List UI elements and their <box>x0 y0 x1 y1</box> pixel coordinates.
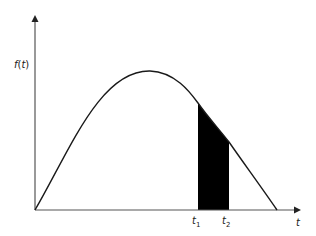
shaded-area-t1-t2 <box>198 103 229 210</box>
x-axis-label: t <box>296 217 301 228</box>
y-axis-arrow-icon <box>32 15 39 22</box>
x-axis-arrow-icon <box>294 207 301 214</box>
marker-t1: t1 <box>192 215 200 229</box>
y-axis-label: f(t) <box>14 59 29 70</box>
marker-t2: t2 <box>222 215 230 229</box>
pdf-diagram: f(t) t t1 t2 <box>0 0 316 236</box>
density-curve <box>35 71 277 210</box>
